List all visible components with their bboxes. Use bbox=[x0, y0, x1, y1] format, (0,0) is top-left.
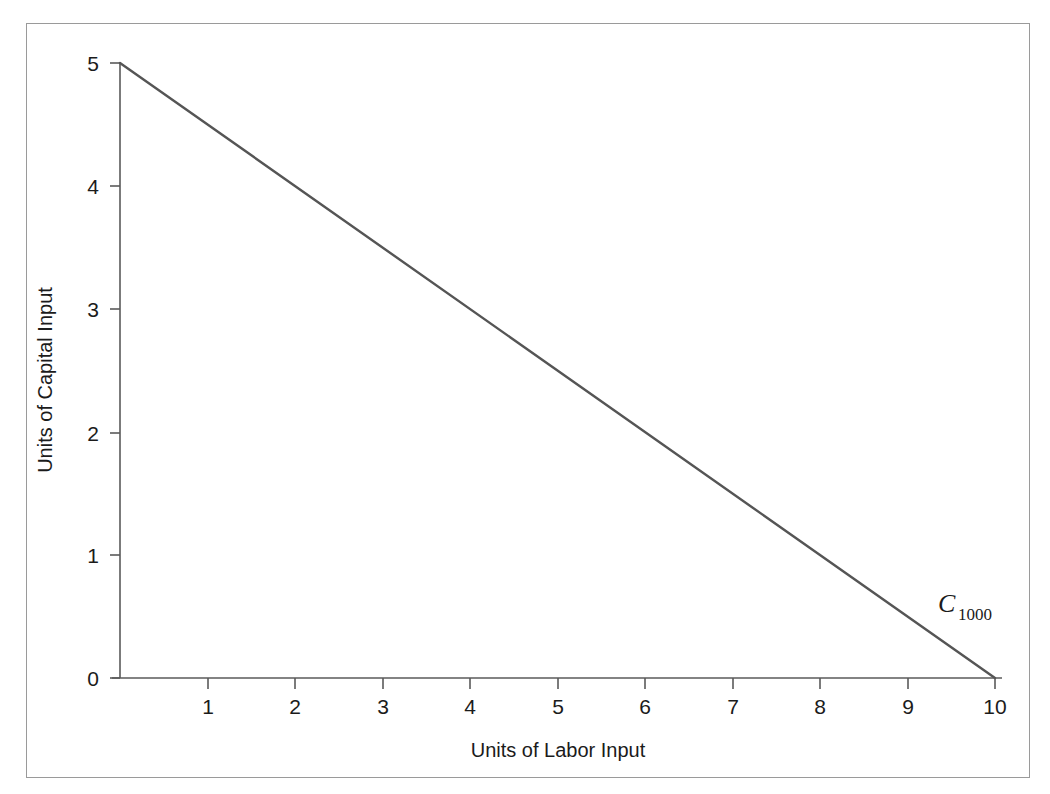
x-axis-title: Units of Labor Input bbox=[471, 739, 646, 761]
y-tick-label-3: 3 bbox=[87, 298, 99, 321]
y-tick-label-5: 5 bbox=[87, 52, 99, 75]
x-tick-label-2: 2 bbox=[289, 695, 301, 718]
x-tick-label-6: 6 bbox=[639, 695, 651, 718]
x-tick-label-5: 5 bbox=[552, 695, 564, 718]
y-tick-label-0: 0 bbox=[87, 667, 99, 690]
y-axis-title: Units of Capital Input bbox=[34, 287, 56, 473]
curve-label-subscript-text: 1000 bbox=[958, 605, 992, 624]
x-tick-label-7: 7 bbox=[727, 695, 739, 718]
x-axis-ticks bbox=[208, 678, 995, 689]
x-tick-label-8: 8 bbox=[814, 695, 826, 718]
x-tick-label-1: 1 bbox=[202, 695, 214, 718]
curve-label-main-text: C bbox=[938, 589, 956, 618]
isoquant-chart: 5 4 3 2 1 0 1 2 3 4 5 6 7 8 9 10 bbox=[0, 0, 1050, 794]
y-tick-label-1: 1 bbox=[87, 544, 99, 567]
curve-label-c1000: C 1000 bbox=[938, 589, 992, 624]
x-tick-label-10: 10 bbox=[983, 695, 1006, 718]
figure-container: 5 4 3 2 1 0 1 2 3 4 5 6 7 8 9 10 bbox=[0, 0, 1050, 794]
x-tick-label-3: 3 bbox=[377, 695, 389, 718]
y-axis-ticks bbox=[110, 63, 120, 678]
y-tick-label-4: 4 bbox=[87, 175, 99, 198]
x-tick-label-4: 4 bbox=[464, 695, 476, 718]
x-tick-label-9: 9 bbox=[902, 695, 914, 718]
y-tick-label-2: 2 bbox=[87, 422, 99, 445]
isoquant-line-c1000 bbox=[120, 63, 995, 678]
